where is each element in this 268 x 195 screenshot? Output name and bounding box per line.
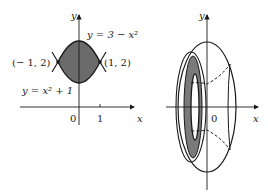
left-origin-label: 0 xyxy=(70,113,76,124)
left-plot: y x 0 1 y = 3 − x² y = x² + 1 (− 1, 2) (… xyxy=(12,10,143,125)
figure-canvas: y x 0 1 y = 3 − x² y = x² + 1 (− 1, 2) (… xyxy=(0,0,268,195)
right-origin-label: 0 xyxy=(211,113,217,124)
tick-label-1: 1 xyxy=(97,113,103,124)
right-plot: y x 0 xyxy=(166,10,259,190)
point-left xyxy=(56,60,60,64)
right-y-axis-label: y xyxy=(198,10,205,21)
right-x-axis-label: x xyxy=(253,113,259,124)
left-y-axis-label: y xyxy=(70,10,77,21)
lower-curve-label: y = x² + 1 xyxy=(21,85,73,96)
point-right xyxy=(98,60,102,64)
point-left-label: (− 1, 2) xyxy=(12,57,51,68)
upper-curve-label: y = 3 − x² xyxy=(86,29,138,40)
left-x-axis-label: x xyxy=(137,113,143,124)
point-right-label: (1, 2) xyxy=(104,57,131,68)
